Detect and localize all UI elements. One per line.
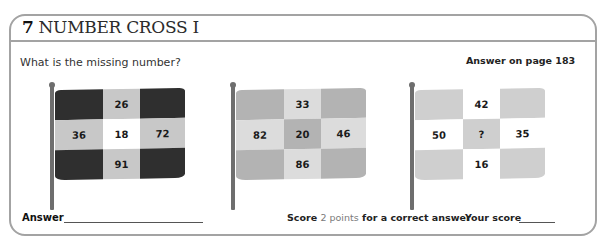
flag-cell-left: 50	[415, 119, 463, 150]
flag-cell-bottom: 16	[463, 149, 500, 180]
flag-cell-bottom: 86	[284, 149, 321, 180]
flag-cell	[321, 148, 366, 179]
flag-cell	[415, 149, 463, 180]
flag-cell	[415, 89, 463, 120]
flag-cell	[236, 89, 284, 120]
answer-label: Answer	[22, 212, 64, 223]
flagpole	[410, 86, 414, 210]
flag-cell	[500, 148, 545, 179]
flag-cell	[236, 149, 284, 180]
answer-input-line[interactable]	[64, 222, 203, 223]
flag-cell-left: 36	[55, 119, 103, 150]
flag-cell-right: 35	[500, 118, 545, 149]
flag-cell	[140, 88, 185, 119]
score-prefix: Score	[287, 212, 317, 223]
flag-cell	[500, 88, 545, 119]
flag-cell-center: 18	[103, 119, 140, 150]
puzzle-number: 7	[22, 17, 34, 37]
flag-3: 42 50 ? 35 16	[410, 82, 550, 212]
answer-reference: Answer on page 183	[466, 55, 575, 66]
flag-cell-top: 26	[103, 89, 140, 120]
flag-cell-right: 46	[321, 118, 366, 149]
flag-grid: 26 36 18 72 91	[55, 88, 185, 180]
flag-cell-top: 33	[284, 89, 321, 120]
score-instructions: Score 2 points for a correct answer	[287, 212, 471, 223]
flag-cell	[55, 149, 103, 180]
flag-cell	[55, 89, 103, 120]
puzzle-title: 7NUMBER CROSS I	[22, 17, 199, 37]
score-points: 2 points	[320, 212, 358, 223]
puzzle-title-text: NUMBER CROSS I	[39, 17, 199, 37]
your-score-input-line[interactable]	[519, 222, 555, 223]
flag-grid: 33 82 20 46 86	[236, 88, 366, 180]
flag-cell	[321, 88, 366, 119]
flagpole	[231, 86, 235, 210]
score-suffix: for a correct answer	[362, 212, 471, 223]
flag-cell	[140, 148, 185, 179]
header-divider	[9, 40, 597, 42]
flag-2: 33 82 20 46 86	[231, 82, 371, 212]
flag-1: 26 36 18 72 91	[50, 82, 190, 212]
flag-cell-bottom: 91	[103, 149, 140, 180]
flag-cell-center: 20	[284, 119, 321, 150]
missing-number-cell: ?	[463, 119, 500, 150]
flagpole	[50, 86, 54, 210]
question-text: What is the missing number?	[20, 56, 181, 69]
flag-grid: 42 50 ? 35 16	[415, 88, 545, 180]
flag-cell-right: 72	[140, 118, 185, 149]
flag-cell-top: 42	[463, 89, 500, 120]
flag-cell-left: 82	[236, 119, 284, 150]
your-score-label: Your score	[465, 212, 521, 223]
